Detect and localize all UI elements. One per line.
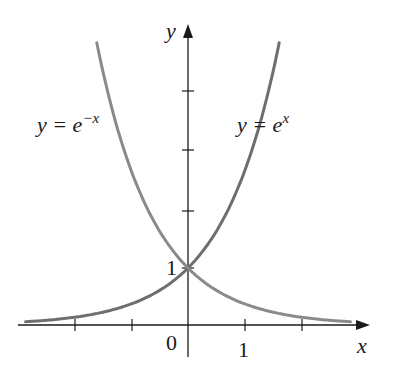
x-axis-arrow-icon bbox=[356, 320, 370, 330]
curve-exp-neg-x bbox=[97, 43, 351, 322]
exponential-chart: y x 0 1 1 y = e−x y = ex bbox=[0, 0, 395, 385]
y-axis-label: y bbox=[164, 18, 176, 43]
svg-text:y = e−x: y = e−x bbox=[35, 110, 99, 137]
label-exp-x: y = ex bbox=[235, 110, 289, 137]
svg-text:y = ex: y = ex bbox=[235, 110, 289, 137]
y-tick-label-1: 1 bbox=[166, 255, 177, 280]
x-axis-label: x bbox=[356, 333, 367, 358]
x-tick-label-1: 1 bbox=[238, 337, 249, 362]
curve-exp-x bbox=[26, 43, 280, 322]
y-axis-arrow-icon bbox=[183, 24, 193, 38]
origin-label: 0 bbox=[166, 330, 177, 355]
label-exp-neg-x: y = e−x bbox=[35, 110, 99, 137]
